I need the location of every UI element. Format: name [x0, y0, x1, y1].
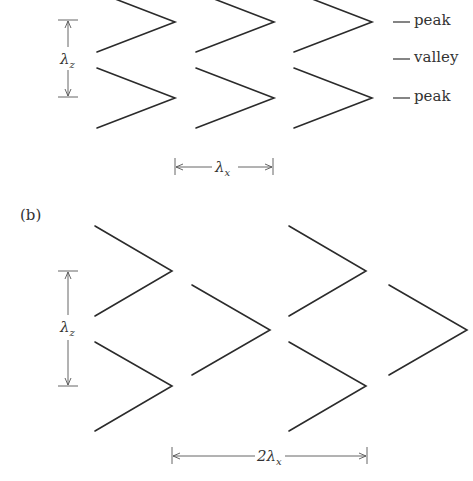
chevron [289, 342, 366, 431]
panel-b-chevrons [95, 226, 467, 431]
chevron [95, 226, 172, 316]
chevron [389, 285, 467, 375]
panel-a-lambda-x-label: λx [215, 158, 230, 178]
legend-peak-bottom: peak [414, 87, 451, 105]
chevron [97, 68, 175, 128]
panel-a-lambda-z-label: λz [60, 50, 75, 70]
panel-b-2lambda-x-label: 2λx [257, 447, 282, 467]
legend-valley: valley [414, 48, 458, 66]
panel-b-lambda-z-label: λz [60, 318, 75, 338]
chevron [95, 342, 172, 431]
chevron [196, 68, 274, 128]
chevron [97, 0, 175, 52]
panel-b-label: (b) [20, 206, 41, 224]
chevron [289, 226, 366, 316]
chevron [196, 0, 274, 52]
chevron [192, 285, 270, 375]
chevron-diagram [0, 0, 473, 481]
panel-a-chevrons [97, 0, 372, 128]
chevron [294, 0, 372, 52]
panel-a-legend-dashes [393, 22, 410, 98]
chevron [294, 68, 372, 128]
legend-peak-top: peak [414, 11, 451, 29]
